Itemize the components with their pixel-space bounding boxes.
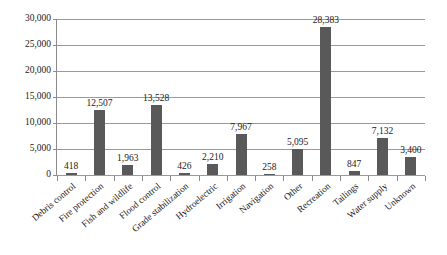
bar (236, 134, 247, 175)
bar-value-label: 1,963 (117, 153, 138, 163)
bar-value-label: 12,507 (86, 98, 112, 108)
y-tick-label: 15,000 (25, 92, 51, 102)
y-tick-mark (53, 45, 57, 46)
bar-value-label: 2,210 (202, 152, 223, 162)
y-tick-label: 30,000 (25, 14, 51, 24)
bar (122, 165, 133, 175)
x-axis-category-labels: Debris controlFire protectionFish and wi… (0, 175, 447, 255)
y-tick-label: 20,000 (25, 66, 51, 76)
bar-value-label: 418 (64, 161, 78, 171)
bar (320, 27, 331, 175)
bar-chart: 05,00010,00015,00020,00025,00030,000 418… (0, 0, 447, 255)
y-tick-label: 10,000 (25, 118, 51, 128)
y-tick-mark (53, 19, 57, 20)
y-tick-mark (53, 97, 57, 98)
bar-value-label: 3,400 (400, 145, 421, 155)
y-tick-mark (53, 123, 57, 124)
y-tick-label: 5,000 (30, 144, 51, 154)
gridline (57, 45, 425, 46)
bar-value-label: 13,528 (143, 93, 169, 103)
bar (151, 105, 162, 175)
bar (292, 149, 303, 175)
bar-value-label: 5,095 (287, 137, 308, 147)
bar (405, 157, 416, 175)
bar (207, 164, 218, 175)
gridline (57, 71, 425, 72)
gridline (57, 19, 425, 20)
bar-value-label: 426 (177, 161, 191, 171)
bar (377, 138, 388, 175)
y-tick-mark (53, 149, 57, 150)
bar-value-label: 847 (347, 159, 361, 169)
bar-value-label: 7,967 (230, 122, 251, 132)
y-axis-labels: 05,00010,00015,00020,00025,00030,000 (0, 19, 51, 175)
y-tick-mark (53, 71, 57, 72)
y-tick-label: 25,000 (25, 40, 51, 50)
bar-value-label: 28,383 (313, 15, 339, 25)
bar-value-label: 258 (262, 162, 276, 172)
bar (94, 110, 105, 175)
bar-value-label: 7,132 (372, 126, 393, 136)
